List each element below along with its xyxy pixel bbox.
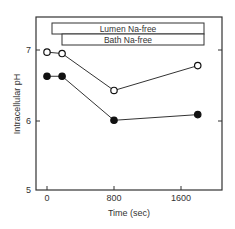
open-circle-marker	[111, 87, 117, 93]
filled-circle-marker	[59, 73, 65, 79]
series-line	[47, 76, 198, 120]
condition-label: Lumen Na-free	[100, 24, 157, 34]
open-circle-marker	[59, 50, 65, 56]
x-tick-label: 800	[106, 193, 121, 203]
axis-ticks: 08001600567	[26, 45, 222, 203]
y-tick-label: 7	[26, 45, 31, 55]
y-tick-label: 5	[26, 185, 31, 195]
filled-circle-marker	[44, 73, 50, 79]
filled-circle-marker	[111, 117, 117, 123]
filled-circle-marker	[195, 111, 201, 117]
x-tick-label: 1600	[171, 193, 191, 203]
chart-svg: Lumen Na-freeBath Na-free 08001600567 Ti…	[0, 0, 235, 229]
series-line	[47, 52, 198, 90]
y-axis-label: Intracellular pH	[12, 74, 22, 135]
y-tick-label: 6	[26, 116, 31, 126]
x-tick-label: 0	[44, 193, 49, 203]
data-series	[44, 49, 201, 124]
condition-label: Bath Na-free	[104, 35, 152, 45]
x-axis-label: Time (sec)	[108, 208, 150, 218]
condition-bars: Lumen Na-freeBath Na-free	[52, 23, 204, 45]
open-circle-marker	[195, 62, 201, 68]
open-circle-marker	[44, 49, 50, 55]
